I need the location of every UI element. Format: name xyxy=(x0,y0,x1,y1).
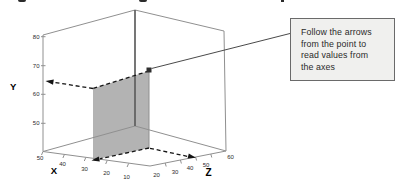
x-tick-label: 50 xyxy=(37,155,44,161)
trace-to-z-axis xyxy=(150,148,189,156)
callout-text-line: the axes xyxy=(301,62,389,74)
arrowhead-z-axis-icon xyxy=(188,153,196,158)
figure-3d-scatter: 80 70 60 50 50 40 30 20 10 20 30 40 50 6… xyxy=(0,0,406,191)
y-axis-title: Y xyxy=(10,81,17,92)
trace-to-y-axis xyxy=(54,82,93,88)
x-tick-label: 20 xyxy=(103,170,110,176)
z-tick-mark xyxy=(180,160,181,164)
z-tick-mark xyxy=(196,157,197,161)
x-tick-label: 40 xyxy=(59,161,66,167)
x-axis-title: X xyxy=(51,165,58,176)
z-tick-label: 20 xyxy=(153,172,160,178)
callout-text-line: Follow the arrows xyxy=(301,27,389,39)
x-tick-mark xyxy=(63,155,65,159)
y-tick-label: 70 xyxy=(33,63,40,69)
z-tick-label: 30 xyxy=(172,169,179,175)
x-tick-label: 30 xyxy=(81,166,88,172)
x-tick-mark xyxy=(84,158,86,162)
box-right-edge xyxy=(224,31,226,151)
z-tick-label: 60 xyxy=(227,154,234,160)
callout-text-line: from the point to xyxy=(301,39,389,51)
x-tick-mark xyxy=(106,161,108,165)
x-tick-label: 10 xyxy=(123,174,130,180)
callout-box: Follow the arrows from the point to read… xyxy=(290,18,395,81)
z-tick-label: 40 xyxy=(187,165,194,171)
callout-text-line: read values from xyxy=(301,50,389,62)
y-tick-label: 80 xyxy=(33,34,40,40)
arrowhead-y-axis-icon xyxy=(46,80,54,85)
z-axis-title: Z xyxy=(205,167,211,178)
z-axis-line xyxy=(150,151,226,166)
data-point-marker xyxy=(147,68,152,73)
z-tick-mark xyxy=(165,163,166,167)
callout-connector-line xyxy=(152,34,291,69)
y-tick-label: 60 xyxy=(33,91,40,97)
box-top-right-edge xyxy=(135,10,224,31)
y-tick-label: 50 xyxy=(33,120,40,126)
drop-plane xyxy=(93,71,149,160)
box-top-left-edge xyxy=(43,10,135,35)
z-tick-mark xyxy=(211,154,212,158)
x-tick-mark xyxy=(127,164,129,168)
